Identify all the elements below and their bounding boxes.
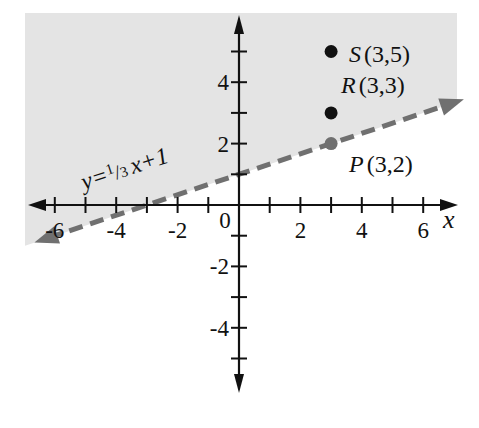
y-axis-down-arrow-icon (234, 374, 244, 393)
y-tick-label: 4 (218, 70, 230, 95)
coordinate-graph: -6-4-2024642-2-4 x y=1/3x+1 S(3,5)R(3,3)… (0, 0, 479, 428)
x-tick-label: 0 (219, 208, 231, 233)
point-p (325, 137, 338, 150)
point-r (325, 106, 338, 119)
y-tick-label: 2 (218, 132, 230, 157)
point-label-p: P(3,2) (348, 151, 413, 177)
y-tick-label: -4 (210, 316, 230, 341)
x-tick-label: 6 (417, 218, 429, 243)
x-tick-label: -6 (45, 218, 64, 243)
point-label-r: R(3,3) (340, 72, 405, 98)
x-axis-label: x (442, 205, 455, 234)
x-tick-label: 2 (295, 218, 307, 243)
line-right-arrow-icon (438, 98, 464, 115)
point-s (325, 45, 338, 58)
point-label-s: S(3,5) (349, 41, 410, 67)
y-tick-label: -2 (210, 254, 229, 279)
x-tick-label: 4 (356, 218, 368, 243)
x-tick-label: -4 (107, 218, 127, 243)
x-tick-label: -2 (168, 218, 187, 243)
